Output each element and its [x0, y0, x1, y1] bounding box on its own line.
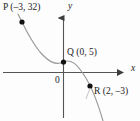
point-label-p: P (–3, 32): [3, 3, 40, 13]
x-axis-label: x: [131, 64, 135, 74]
point-label-r: R (2, –3): [94, 87, 128, 97]
math-figure: P (–3, 32) Q (0, 5) R (2, –3) y x 0: [0, 0, 140, 121]
point-label-q: Q (0, 5): [67, 48, 97, 58]
point-dot-r: [87, 83, 92, 88]
y-axis-label: y: [68, 2, 72, 12]
exponential-curve: [18, 14, 103, 121]
r-leader-line: [86, 88, 90, 99]
figure-canvas: [0, 0, 140, 121]
origin-label: 0: [55, 76, 60, 86]
point-dot-p: [19, 19, 24, 24]
point-dot-q: [61, 59, 66, 64]
